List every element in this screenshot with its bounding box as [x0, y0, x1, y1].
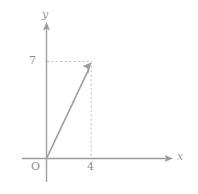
x-tick-label-4: 4 — [87, 161, 94, 172]
x-axis-label: x — [177, 151, 183, 162]
vector-arrow-shaft — [47, 70, 89, 158]
y-axis-label: y — [42, 9, 48, 20]
y-tick-label-7: 7 — [29, 55, 36, 66]
vector-diagram-figure: y x 7 O 4 — [0, 0, 198, 194]
origin-label: O — [31, 161, 40, 172]
coordinate-plot-svg — [0, 0, 198, 194]
